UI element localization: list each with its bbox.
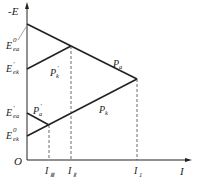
x-axis-arrow [185,158,192,162]
diagram: -E I O E 0 ea E ' ek E ' ea E 0 ek I Ⅲ I… [0,0,197,181]
y-axis-arrow [25,2,29,9]
svg-text:': ' [40,102,42,110]
ytick-eea-prime: E ' ea [5,104,19,119]
label-pa-prime: P ' a [32,102,42,117]
svg-text:E: E [5,63,12,74]
svg-text:E: E [5,40,12,51]
label-pk: P k [98,104,108,116]
svg-text:k: k [105,109,108,116]
svg-text:0: 0 [13,36,17,44]
ytick-eea0: E 0 ea [5,27,26,52]
svg-text:a: a [119,63,122,70]
svg-text:ek: ek [13,68,19,75]
xtick-i3: I Ⅲ [44,165,55,178]
svg-text:k: k [56,72,59,79]
svg-text:1: 1 [139,171,142,178]
xtick-i2: I Ⅱ [67,165,77,178]
svg-text:ea: ea [13,112,19,119]
svg-text:': ' [13,104,15,112]
label-pk-prime: P ' k [49,64,59,79]
svg-text:a: a [39,110,42,117]
x-axis-label: I [179,165,185,177]
ytick-eek0: E 0 ek [5,126,19,142]
svg-text:E: E [5,130,12,141]
line-pa [27,24,137,79]
xtick-i1: I 1 [133,165,142,178]
svg-text:Ⅱ: Ⅱ [73,172,77,178]
line-pk [27,79,137,136]
label-pa: P a [112,58,122,70]
svg-text:I: I [67,165,72,176]
svg-text:': ' [13,60,15,68]
y-axis-label: -E [8,5,19,17]
origin-label: O [14,155,22,167]
svg-text:Ⅲ: Ⅲ [50,172,55,178]
svg-text:ea: ea [13,45,19,52]
svg-text:ek: ek [13,135,19,142]
svg-text:I: I [44,165,49,176]
svg-text:0: 0 [13,126,17,134]
line-pk-prime [27,46,71,69]
ytick-eek-prime: E ' ek [5,60,19,75]
svg-text:': ' [57,64,59,72]
svg-text:E: E [5,107,12,118]
svg-text:I: I [133,165,138,176]
